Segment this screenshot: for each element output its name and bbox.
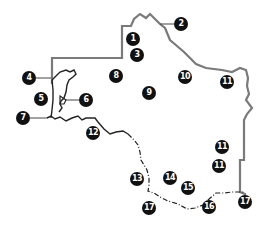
map-marker[interactable]: 5 [34,92,48,106]
map-marker[interactable]: 3 [130,48,144,62]
map-marker[interactable]: 8 [109,69,123,83]
map-marker[interactable]: 1 [126,32,140,46]
map-marker[interactable]: 7 [16,111,30,125]
map-marker[interactable]: 11 [215,140,229,154]
map-marker[interactable]: 14 [163,171,177,185]
map-marker[interactable]: 11 [220,75,234,89]
region-map: 1 2 3 4 5 6 7 8 9 10 11 11 11 12 13 14 1… [0,0,277,230]
map-marker[interactable]: 9 [142,86,156,100]
map-marker[interactable]: 17 [142,201,156,215]
map-marker[interactable]: 17 [238,195,252,209]
map-marker[interactable]: 6 [79,93,93,107]
map-marker[interactable]: 13 [130,172,144,186]
map-marker[interactable]: 12 [86,126,100,140]
map-marker[interactable]: 15 [181,181,195,195]
map-marker[interactable]: 16 [202,200,216,214]
peninsula [51,80,53,118]
map-marker[interactable]: 4 [22,71,36,85]
map-marker[interactable]: 10 [178,70,192,84]
coastline [52,70,76,112]
map-marker[interactable]: 2 [174,17,188,31]
map-marker[interactable]: 11 [212,159,226,173]
